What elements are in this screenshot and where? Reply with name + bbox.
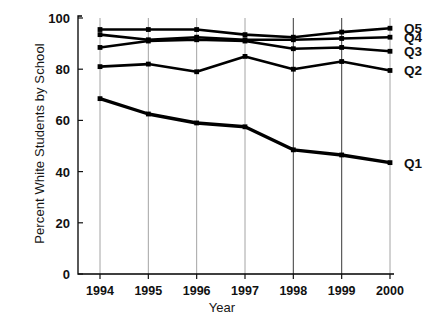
- data-point-marker: [194, 27, 199, 32]
- data-point-marker: [146, 62, 151, 67]
- data-point-marker: [291, 37, 296, 42]
- data-point-marker: [194, 121, 199, 126]
- data-point-marker: [339, 153, 344, 158]
- data-point-marker: [146, 27, 151, 32]
- data-point-marker: [339, 36, 344, 41]
- data-point-marker: [243, 54, 248, 59]
- data-point-marker: [388, 35, 393, 40]
- data-point-marker: [194, 69, 199, 74]
- line-chart: Percent White Students by School Year 10…: [0, 0, 444, 333]
- data-point-marker: [339, 59, 344, 64]
- data-point-marker: [98, 64, 103, 69]
- data-point-marker: [98, 32, 103, 37]
- data-point-marker: [388, 49, 393, 54]
- data-point-marker: [388, 26, 393, 31]
- data-point-marker: [146, 112, 151, 117]
- axis-spine: [78, 16, 394, 274]
- data-point-marker: [291, 67, 296, 72]
- data-point-marker: [243, 124, 248, 129]
- data-point-marker: [388, 160, 393, 165]
- data-point-marker: [339, 30, 344, 35]
- data-point-marker: [243, 32, 248, 37]
- data-point-marker: [291, 46, 296, 51]
- data-point-marker: [388, 68, 393, 73]
- data-point-marker: [146, 39, 151, 44]
- data-point-marker: [194, 37, 199, 42]
- data-point-marker: [98, 96, 103, 101]
- data-point-marker: [98, 45, 103, 50]
- data-point-marker: [98, 27, 103, 32]
- data-point-marker: [291, 147, 296, 152]
- plot-area: [0, 0, 444, 333]
- data-point-marker: [339, 45, 344, 50]
- data-point-marker: [243, 39, 248, 44]
